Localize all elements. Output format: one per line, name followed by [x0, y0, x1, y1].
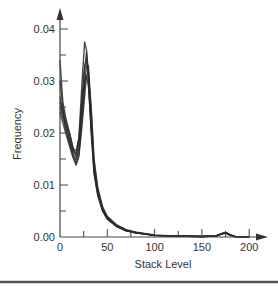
x-axis-title: Stack Level	[135, 258, 192, 270]
y-tick-label: 0.00	[34, 231, 55, 243]
chart-figure: 0.000.010.020.030.04050100150200 Stack L…	[0, 0, 278, 287]
y-axis-arrow-icon	[57, 8, 64, 20]
x-tick-label: 200	[240, 241, 258, 253]
x-tick-label: 0	[57, 241, 63, 253]
series-layer	[60, 42, 249, 237]
y-tick-label: 0.01	[34, 179, 55, 191]
line-chart: 0.000.010.020.030.04050100150200 Stack L…	[0, 0, 278, 287]
y-tick-label: 0.02	[34, 127, 55, 139]
series-line	[60, 73, 249, 237]
series-line	[60, 76, 249, 237]
x-tick-label: 150	[193, 241, 211, 253]
y-tick-label: 0.04	[34, 23, 55, 35]
x-tick-label: 100	[145, 241, 163, 253]
x-tick-label: 50	[101, 241, 113, 253]
x-axis-arrow-icon	[256, 234, 268, 241]
y-axis-title: Frequency	[11, 108, 23, 160]
series-line	[60, 60, 249, 237]
y-tick-label: 0.03	[34, 75, 55, 87]
